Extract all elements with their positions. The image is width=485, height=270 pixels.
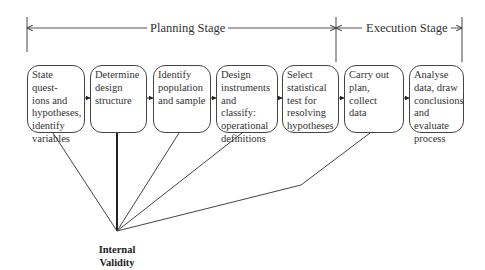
step-design-instruments: Design instruments and classify: operati…: [216, 65, 278, 133]
step-select-test: Select statistical test for resolving hy…: [282, 65, 339, 133]
step-analyse-data: Analyse data, draw conclusions and evalu…: [409, 65, 464, 133]
step-determine-design: Determine design structure: [90, 65, 147, 133]
step-state-questions: State quest- ions and hypotheses, identi…: [27, 65, 85, 133]
execution-stage-label: Execution Stage: [363, 20, 451, 36]
internal-validity-line1: Internal: [97, 243, 137, 256]
planning-stage-label: Planning Stage: [147, 20, 228, 36]
step-carry-out-plan: Carry out plan, collect data: [344, 65, 404, 133]
step-identify-population: Identify population and sample: [153, 65, 211, 133]
internal-validity-line2: Validity: [97, 256, 137, 269]
internal-validity-label: Internal Validity: [97, 243, 137, 269]
